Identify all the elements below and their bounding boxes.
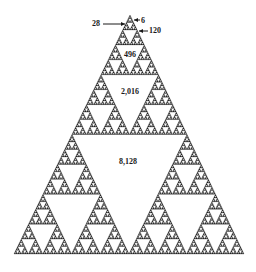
hole-label-120: 120 bbox=[149, 27, 161, 35]
arrowhead-icon bbox=[134, 18, 138, 22]
hole-label-28: 28 bbox=[92, 20, 100, 28]
hole-label-496: 496 bbox=[124, 51, 136, 59]
hole-label-8128: 8,128 bbox=[119, 158, 137, 166]
hole-label-2016: 2,016 bbox=[121, 88, 139, 96]
hole-label-6: 6 bbox=[141, 17, 145, 25]
sierpinski-triangle-diagram bbox=[0, 0, 256, 272]
arrowhead-icon bbox=[139, 29, 143, 33]
arrowhead-icon bbox=[121, 22, 125, 26]
